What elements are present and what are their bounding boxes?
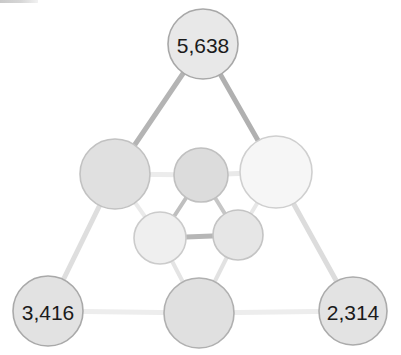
bottom-center-node[interactable] — [164, 278, 234, 348]
inner-lower-left-node-circle[interactable] — [134, 212, 186, 264]
inner-lower-right-node[interactable] — [213, 210, 263, 260]
bottom-left-node[interactable]: 3,416 — [13, 276, 83, 346]
top-node[interactable]: 5,638 — [168, 9, 238, 79]
middle-left-node-circle[interactable] — [80, 139, 150, 209]
network-graph-svg: 5,6383,4162,314 — [0, 0, 401, 355]
bottom-right-node-label: 2,314 — [327, 301, 380, 324]
inner-lower-left-node[interactable] — [134, 212, 186, 264]
network-graph-canvas: 5,6383,4162,314 — [0, 0, 401, 355]
top-node-label: 5,638 — [177, 34, 230, 57]
bottom-right-node[interactable]: 2,314 — [319, 277, 387, 345]
bottom-left-node-label: 3,416 — [22, 301, 75, 324]
bottom-center-node-circle[interactable] — [164, 278, 234, 348]
node-layer: 5,6383,4162,314 — [13, 9, 387, 348]
middle-center-node-circle[interactable] — [174, 148, 228, 202]
middle-center-node[interactable] — [174, 148, 228, 202]
middle-right-node-circle[interactable] — [240, 136, 312, 208]
middle-right-node[interactable] — [240, 136, 312, 208]
middle-left-node[interactable] — [80, 139, 150, 209]
inner-lower-right-node-circle[interactable] — [213, 210, 263, 260]
